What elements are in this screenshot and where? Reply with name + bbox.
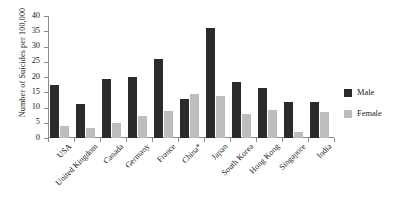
y-tick-label-20: 20: [32, 72, 40, 82]
bar-group: [282, 16, 308, 138]
bar-male: [50, 85, 59, 138]
chart-legend: Male Female: [344, 88, 382, 130]
bar-group: [74, 16, 100, 138]
x-tick-3: [126, 138, 127, 142]
x-axis-label: Singapore: [278, 142, 308, 172]
bar-female: [320, 112, 329, 138]
x-tick-10: [308, 138, 309, 142]
bar-male: [232, 82, 241, 138]
y-tick-label-15: 15: [32, 87, 40, 97]
bar-group: [100, 16, 126, 138]
bar-male: [76, 104, 85, 138]
bar-female: [294, 132, 303, 138]
bar-group: [204, 16, 230, 138]
bar-group: [48, 16, 74, 138]
bar-female: [60, 126, 69, 138]
x-tick-6: [204, 138, 205, 142]
bar-group: [256, 16, 282, 138]
bar-male: [128, 77, 137, 138]
bar-group: [230, 16, 256, 138]
x-tick-2: [100, 138, 101, 142]
x-axis-label: Canada: [102, 142, 126, 166]
x-tick-0: [48, 138, 49, 142]
bar-male: [206, 28, 215, 138]
x-tick-9: [282, 138, 283, 142]
legend-label-female: Female: [357, 109, 382, 118]
y-tick-label-0: 0: [36, 133, 40, 143]
bar-male: [258, 88, 267, 138]
bar-female: [242, 114, 251, 138]
y-tick-label-30: 30: [32, 41, 40, 51]
y-axis-title: Number of Suicides per 100,000: [18, 0, 27, 133]
bar-male: [180, 99, 189, 138]
x-tick-11: [334, 138, 335, 142]
bar-group: [126, 16, 152, 138]
y-tick-label-25: 25: [32, 56, 40, 66]
y-tick-label-40: 40: [32, 11, 40, 21]
bar-female: [86, 128, 95, 138]
bar-female: [138, 116, 147, 138]
x-axis-label: USA: [55, 142, 73, 160]
bar-male: [102, 79, 111, 138]
y-tick-label-5: 5: [36, 117, 40, 127]
y-tick-label-10: 10: [32, 102, 40, 112]
x-tick-5: [178, 138, 179, 142]
bar-female: [190, 94, 199, 138]
legend-item-male: Male: [344, 88, 382, 97]
bar-female: [164, 111, 173, 138]
bar-male: [310, 102, 319, 138]
suicide-rate-bar-chart: Number of Suicides per 100,000 403530252…: [0, 0, 404, 208]
legend-item-female: Female: [344, 109, 382, 118]
bar-male: [154, 59, 163, 138]
x-axis-label: China*: [180, 142, 203, 165]
x-tick-7: [230, 138, 231, 142]
x-tick-8: [256, 138, 257, 142]
bar-female: [268, 110, 277, 138]
legend-label-male: Male: [357, 88, 374, 97]
x-axis-label: Japan: [210, 142, 230, 162]
x-axis-label: Germany: [123, 142, 151, 170]
bar-group: [178, 16, 204, 138]
x-axis-label: India: [315, 142, 333, 160]
x-tick-1: [74, 138, 75, 142]
x-tick-4: [152, 138, 153, 142]
male-swatch-icon: [344, 89, 352, 97]
x-axis-label: France: [155, 142, 177, 164]
bar-female: [112, 123, 121, 138]
bar-group: [308, 16, 334, 138]
y-tick-label-35: 35: [32, 26, 40, 36]
bar-group: [152, 16, 178, 138]
bar-female: [216, 96, 225, 138]
bar-male: [284, 102, 293, 138]
plot-area: 4035302520151050: [48, 16, 334, 138]
female-swatch-icon: [344, 110, 352, 118]
